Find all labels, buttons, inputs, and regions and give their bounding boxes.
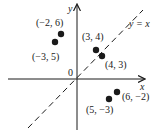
- point-3-4: [93, 47, 99, 53]
- point-label: (−3, 5): [32, 51, 59, 63]
- point-neg3-5: [52, 39, 58, 45]
- point-label: (6, −2): [122, 91, 149, 103]
- point-label: (−2, 6): [36, 17, 63, 29]
- point-label: (4, 3): [105, 59, 127, 71]
- point-6-neg2: [114, 89, 120, 95]
- point-neg2-6: [58, 31, 64, 37]
- point-label: (5, −3): [86, 104, 113, 116]
- coordinate-plane: y x 0 y = x (−2, 6) (−3, 5) (3, 4) (4, 3…: [0, 0, 160, 132]
- origin-label: 0: [68, 67, 73, 78]
- y-axis-label: y: [67, 3, 73, 14]
- point-label: (3, 4): [82, 31, 104, 43]
- line-label: y = x: [128, 18, 150, 29]
- point-5-neg3: [106, 96, 112, 102]
